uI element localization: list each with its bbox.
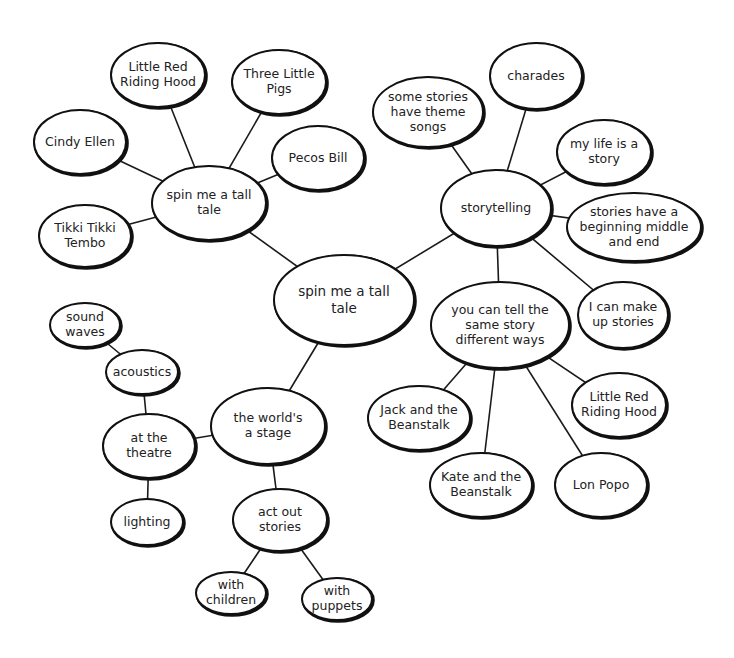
node-label: with (218, 577, 245, 592)
node-label: lighting (123, 514, 170, 529)
node-lrrh-2: Little RedRiding Hood (572, 373, 667, 438)
node-act-out: act outstories (233, 489, 328, 552)
node-kate: Kate and theBeanstalk (430, 453, 533, 518)
node-label: Three Little (242, 66, 314, 81)
node-jack: Jack and theBeanstalk (368, 386, 471, 451)
node-my-life: my life is astory (557, 120, 652, 185)
node-label: Beanstalk (450, 484, 512, 499)
node-label: sound (66, 309, 104, 324)
node-label: songs (410, 119, 447, 134)
node-label: Little Red (589, 389, 648, 404)
node-label: Jack and the (379, 402, 458, 417)
mind-map: spin me a talltalespin me a talltaleLitt… (0, 0, 734, 658)
node-cindy-ellen: Cindy Ellen (34, 110, 127, 175)
node-tall-tale: spin me a talltale (152, 166, 267, 241)
node-theme-songs: some storieshave themesongs (373, 77, 484, 148)
node-label: my life is a (570, 136, 638, 151)
node-label: a stage (245, 425, 292, 440)
node-make-up: I can makeup stories (578, 282, 669, 349)
node-label: Pigs (266, 81, 291, 96)
node-label: tale (331, 300, 357, 316)
node-label: waves (65, 324, 104, 339)
node-label: spin me a tall (167, 187, 252, 202)
node-label: I can make (589, 299, 658, 314)
node-lrrh-1: Little RedRiding Hood (111, 43, 206, 108)
node-label: and end (608, 234, 659, 249)
node-label: acoustics (113, 364, 171, 379)
node-theatre: at thetheatre (103, 414, 196, 479)
node-storytelling: storytelling (441, 170, 552, 247)
node-label: theatre (126, 445, 172, 460)
node-label: Lon Popo (573, 477, 630, 492)
node-label: Pecos Bill (289, 150, 348, 165)
node-label: Cindy Ellen (45, 134, 115, 149)
node-label: different ways (456, 332, 545, 347)
node-label: stories (259, 519, 301, 534)
node-label: Tikki Tikki (53, 220, 115, 235)
node-children: withchildren (196, 572, 267, 615)
node-label: puppets (312, 598, 363, 613)
node-puppets: withpuppets (302, 578, 373, 621)
node-label: the world's (234, 410, 303, 425)
node-label: Kate and the (441, 469, 522, 484)
node-sound-waves: soundwaves (50, 303, 121, 348)
node-label: Beanstalk (388, 417, 450, 432)
node-label: Little Red (128, 59, 187, 74)
node-diff-ways: you can tell thesame storydifferent ways (431, 282, 570, 369)
node-label: some stories (388, 89, 468, 104)
node-label: at the (130, 430, 167, 445)
node-acoustics: acoustics (106, 350, 179, 395)
bubble-nodes: spin me a talltalespin me a talltaleLitt… (34, 43, 702, 621)
node-label: stories have a (590, 204, 678, 219)
node-label: with (324, 583, 351, 598)
node-worlds-stage: the world'sa stage (211, 388, 326, 465)
node-lighting: lighting (111, 499, 184, 546)
node-label: charades (507, 68, 564, 83)
node-label: same story (465, 317, 535, 332)
node-label: Tembo (64, 235, 106, 250)
node-label: you can tell the (451, 302, 549, 317)
node-lon-popo: Lon Popo (555, 453, 648, 518)
node-label: story (588, 151, 620, 166)
node-label: beginning middle (580, 219, 689, 234)
node-three-pigs: Three LittlePigs (232, 50, 327, 115)
node-label: children (206, 592, 256, 607)
node-label: spin me a tall (298, 283, 390, 299)
node-label: tale (197, 202, 221, 217)
node-tikki: Tikki TikkiTembo (39, 205, 132, 268)
node-beginning: stories have abeginning middleand end (567, 193, 702, 262)
node-label: Riding Hood (120, 74, 196, 89)
node-label: storytelling (461, 200, 531, 215)
node-charades: charades (490, 43, 583, 110)
node-pecos-bill: Pecos Bill (272, 126, 365, 191)
node-root: spin me a talltale (274, 255, 415, 346)
node-label: up stories (592, 314, 654, 329)
node-label: act out (258, 504, 302, 519)
node-label: Riding Hood (581, 404, 657, 419)
node-label: have theme (390, 104, 465, 119)
